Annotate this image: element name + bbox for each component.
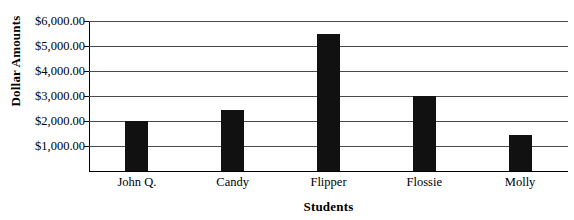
bar[interactable]	[317, 34, 340, 172]
y-axis-tick-label: $4,000.00	[15, 64, 85, 78]
y-axis-tick-label: $6,000.00	[15, 14, 85, 28]
bar[interactable]	[221, 110, 244, 171]
y-axis-tick-mark	[84, 46, 89, 47]
chart-title-cutoff	[0, 0, 574, 5]
y-axis-tick-label: $2,000.00	[15, 114, 85, 128]
bar-chart: Dollar Amounts $1,000.00$2,000.00$3,000.…	[0, 0, 574, 220]
y-axis-tick-label: $1,000.00	[15, 139, 85, 153]
plot-area	[89, 21, 568, 171]
y-axis-tick-mark	[84, 21, 89, 22]
bar[interactable]	[509, 135, 532, 171]
y-axis-tick-label: $5,000.00	[15, 39, 85, 53]
x-axis-tick-label: Molly	[460, 174, 574, 190]
y-axis-tick-label: $3,000.00	[15, 89, 85, 103]
x-axis-title: Students	[89, 199, 568, 215]
y-axis-tick-mark	[84, 96, 89, 97]
x-axis-line	[89, 171, 568, 172]
gridline	[89, 21, 568, 22]
bar[interactable]	[413, 96, 436, 171]
bar[interactable]	[125, 121, 148, 171]
y-axis-tick-mark	[84, 121, 89, 122]
y-axis-tick-labels: $1,000.00$2,000.00$3,000.00$4,000.00$5,0…	[14, 0, 85, 220]
y-axis-tick-mark	[84, 71, 89, 72]
y-axis-tick-mark	[84, 146, 89, 147]
